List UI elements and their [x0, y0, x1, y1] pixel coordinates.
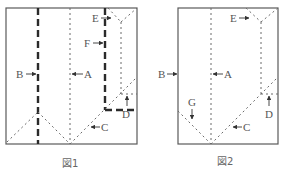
- diagonal-mid: [38, 112, 70, 144]
- diagonal-left: [7, 112, 38, 142]
- label-A: A: [84, 68, 92, 80]
- figure-1-caption: 図1: [62, 158, 78, 169]
- label-A: A: [224, 68, 232, 80]
- label-G: G: [188, 96, 196, 108]
- corner-fold-left: [246, 8, 261, 22]
- figure-2-caption: 図2: [217, 156, 233, 167]
- label-D: D: [265, 108, 273, 120]
- figure-1: B A F E C D 図1: [6, 8, 137, 169]
- fold-line-G: [178, 111, 211, 144]
- figure-2: B A E G C D 図2: [158, 8, 278, 167]
- label-E: E: [230, 12, 237, 24]
- label-D: D: [122, 108, 130, 120]
- label-B: B: [16, 68, 23, 80]
- corner-fold-left: [108, 8, 121, 22]
- corner-fold-right: [261, 8, 278, 22]
- label-E: E: [92, 12, 99, 24]
- label-F: F: [84, 37, 90, 49]
- label-C: C: [243, 121, 250, 133]
- label-B: B: [158, 68, 165, 80]
- label-C: C: [101, 121, 108, 133]
- folding-diagram: B A F E C D 図1 B A E: [0, 0, 284, 177]
- corner-fold-right: [121, 8, 137, 22]
